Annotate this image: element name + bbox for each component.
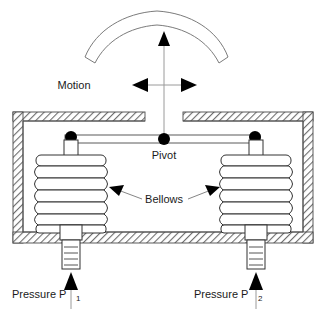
- bellows-right-top-cap: [221, 155, 291, 166]
- bellows-right-convolution-2: [220, 178, 293, 190]
- bellows-left-top-cap: [36, 155, 106, 166]
- pressure-right-label-text: Pressure P: [194, 288, 248, 300]
- pressure-left-label-subscript: 1: [76, 294, 81, 303]
- housing-bottom-wall: [13, 232, 313, 243]
- pressure-port-right-flange: [245, 225, 267, 240]
- bellows-right-convolution-5: [220, 214, 293, 225]
- bellows-right-convolution-1: [220, 166, 293, 178]
- pressure-right-label-subscript: 2: [258, 294, 263, 303]
- motion-label: Motion: [57, 79, 90, 91]
- housing-top-wall-right: [183, 112, 313, 121]
- housing-right-wall: [303, 112, 313, 243]
- pressure-left-label-text: Pressure P: [12, 288, 66, 300]
- bellows-left-convolution-2: [35, 178, 108, 190]
- housing-top-wall-left: [13, 112, 145, 121]
- pressure-port-left-flange: [60, 225, 82, 240]
- bellows-left-convolution-3: [35, 190, 108, 202]
- bellows-left-convolution-5: [35, 214, 108, 225]
- bellows-left-convolution-1: [35, 166, 108, 178]
- bellows-right-convolution-4: [220, 202, 293, 214]
- bellows-left-rod: [64, 140, 78, 156]
- pivot-label: Pivot: [152, 149, 176, 161]
- diagram-canvas: Motion Pivot: [0, 0, 327, 313]
- bellows-right-convolution-3: [220, 190, 293, 202]
- bellows-label: Bellows: [145, 193, 183, 205]
- bellows-right-rod: [249, 140, 263, 156]
- pivot-dot-center: [158, 133, 170, 145]
- housing-left-wall: [13, 112, 23, 243]
- bellows-left-convolution-4: [35, 202, 108, 214]
